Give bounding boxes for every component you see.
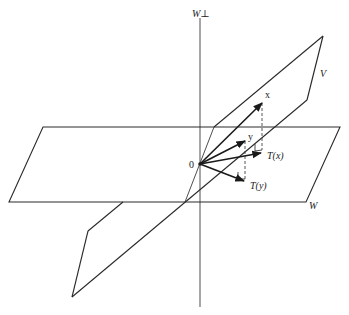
label-t-y: T(y) bbox=[250, 180, 267, 192]
projection-diagram: W⊥ V W 0 x y T(x) T(y) bbox=[0, 0, 349, 315]
w-plane bbox=[9, 127, 340, 202]
label-w: W bbox=[309, 200, 319, 211]
right-angle-y-icon bbox=[238, 172, 245, 179]
origin-point bbox=[198, 162, 202, 166]
vector-t-y bbox=[200, 164, 244, 181]
right-angle-x-icon bbox=[255, 144, 262, 151]
label-t-x: T(x) bbox=[267, 150, 284, 162]
label-y: y bbox=[248, 131, 253, 142]
v-plane bbox=[72, 36, 323, 297]
label-origin: 0 bbox=[189, 159, 194, 170]
label-v: V bbox=[320, 68, 328, 79]
label-x: x bbox=[265, 89, 270, 100]
label-w-perp: W⊥ bbox=[192, 8, 210, 19]
